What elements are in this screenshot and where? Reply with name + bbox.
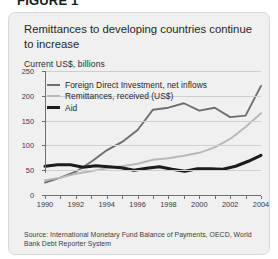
x-axis-tick-mark bbox=[230, 196, 231, 199]
x-axis-tick-label: 1996 bbox=[129, 200, 145, 209]
y-axis-tick-label: 50 bbox=[26, 166, 34, 175]
legend-item-remittances: Remittances, received (US$) bbox=[47, 91, 207, 103]
source-note: Source: International Monetary Fund Bala… bbox=[24, 231, 262, 248]
legend-swatch-fdi bbox=[47, 84, 60, 86]
figure-card-stage: FIGURE 1 Remittances to developing count… bbox=[0, 0, 278, 259]
chart-card: Remittances to developing countries cont… bbox=[8, 12, 270, 255]
legend-item-aid: Aid bbox=[47, 102, 207, 114]
legend-swatch-remittances bbox=[47, 95, 60, 97]
chart-legend: Foreign Direct Investment, net inflows R… bbox=[47, 79, 207, 114]
y-axis-line bbox=[45, 71, 46, 173]
x-axis-tick-label: 1990 bbox=[37, 200, 53, 209]
gridline bbox=[45, 71, 261, 72]
x-axis-tick-label: 2000 bbox=[191, 200, 207, 209]
x-axis-tick-mark bbox=[107, 196, 108, 199]
chart-title: Remittances to developing countries cont… bbox=[24, 22, 252, 51]
x-axis-tick-mark bbox=[91, 196, 92, 199]
y-axis-tick-label: 0 bbox=[30, 191, 34, 200]
y-axis-labels: 050100150200250 bbox=[9, 71, 34, 195]
x-axis-tick-mark bbox=[199, 196, 200, 199]
x-axis-tick-label: 1992 bbox=[68, 200, 84, 209]
chart-subtitle: Current US$, billions bbox=[24, 59, 105, 69]
x-axis-tick-mark bbox=[246, 196, 247, 199]
legend-item-fdi: Foreign Direct Investment, net inflows bbox=[47, 79, 207, 91]
x-axis-tick-mark bbox=[168, 196, 169, 199]
legend-label-remittances: Remittances, received (US$) bbox=[65, 91, 173, 101]
x-axis-tick-mark bbox=[184, 196, 185, 199]
x-axis-tick-mark bbox=[261, 196, 262, 199]
x-axis-tick-mark bbox=[138, 196, 139, 199]
series-line-aid bbox=[45, 155, 261, 171]
legend-label-aid: Aid bbox=[65, 103, 77, 113]
x-axis-tick-mark bbox=[122, 196, 123, 199]
x-axis-tick-mark bbox=[60, 196, 61, 199]
x-axis-tick-mark bbox=[153, 196, 154, 199]
x-axis-tick-label: 2002 bbox=[222, 200, 238, 209]
x-axis-tick-mark bbox=[45, 196, 46, 199]
x-axis-tick-label: 1994 bbox=[98, 200, 114, 209]
y-axis-tick-label: 100 bbox=[22, 141, 34, 150]
x-axis-tick-mark bbox=[215, 196, 216, 199]
x-axis-tick-label: 1998 bbox=[160, 200, 176, 209]
x-axis-tick-mark bbox=[76, 196, 77, 199]
y-axis-tick-label: 250 bbox=[22, 67, 34, 76]
gridline bbox=[45, 170, 261, 171]
legend-label-fdi: Foreign Direct Investment, net inflows bbox=[65, 80, 207, 90]
legend-swatch-aid bbox=[47, 106, 60, 109]
y-axis-tick-label: 200 bbox=[22, 91, 34, 100]
y-axis-tick-label: 150 bbox=[22, 116, 34, 125]
x-axis-tick-label: 2004 bbox=[253, 200, 269, 209]
gridline bbox=[45, 145, 261, 146]
cut-off-heading-fragment: FIGURE 1 bbox=[17, 0, 137, 8]
gridline bbox=[45, 121, 261, 122]
